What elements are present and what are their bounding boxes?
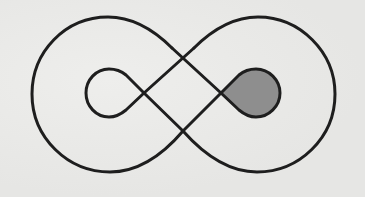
strand-top-right-to-left-loop: [144, 48, 194, 93]
strand-right-loop-to-bottom: [183, 93, 221, 131]
strand-top-left-to-right-loop: [172, 48, 221, 93]
outer-left-arc: [32, 17, 183, 172]
knot-figure: [0, 0, 365, 197]
strand-left-loop-to-bottom: [144, 93, 183, 131]
inner-right-loop-shaded: [221, 69, 280, 117]
inner-left-loop: [86, 69, 144, 117]
figure-page: [0, 0, 365, 197]
